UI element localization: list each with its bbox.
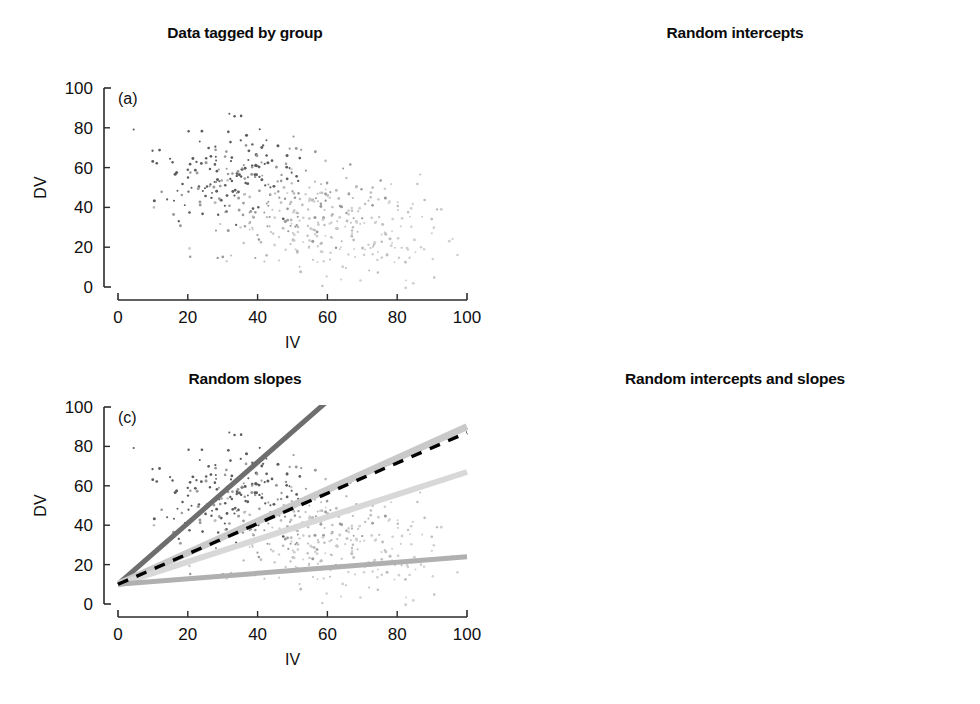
y-tick-label: 100 [65,79,93,98]
panel-tag: (c) [118,409,137,426]
panel-b: Random intercepts 0204060801000204060801… [490,0,980,352]
x-tick-label: 20 [178,308,197,327]
y-axis: 020406080100 [65,79,111,297]
x-axis: 020406080100 [113,610,481,644]
y-tick-label: 80 [74,437,93,456]
panel-c-plot: 020406080100020406080100IVDV(c) [0,352,490,704]
x-tick-label: 100 [453,625,481,644]
x-tick-label: 60 [318,625,337,644]
panel-d: Random intercepts and slopes 02040608010… [490,352,980,704]
y-axis-label: DV [32,494,49,517]
y-tick-label: 100 [65,398,93,417]
y-axis: 020406080100 [65,398,111,614]
panel-c: Random slopes 020406080100020406080100IV… [0,352,490,704]
x-tick-label: 100 [453,308,481,327]
group-regression-line [118,352,467,584]
y-tick-label: 40 [74,198,93,217]
x-tick-label: 80 [388,625,407,644]
scatter-points [133,113,459,290]
x-tick-label: 20 [178,625,197,644]
x-axis: 020406080100 [113,293,481,327]
x-tick-label: 0 [113,625,122,644]
y-tick-label: 40 [74,516,93,535]
y-tick-label: 0 [84,278,93,297]
panel-tag: (a) [118,90,138,107]
panel-a-plot: 020406080100020406080100IVDV(a) [0,0,490,352]
x-tick-label: 60 [318,308,337,327]
y-tick-label: 60 [74,477,93,496]
panel-d-plot: 020406080100020406080100IVDV(d) [490,352,980,704]
x-tick-label: 0 [113,308,122,327]
panel-a: Data tagged by group 0204060801000204060… [0,0,490,352]
panel-b-plot: 020406080100020406080100IVDV(b) [490,0,980,352]
figure-multilevel-models: Data tagged by group 0204060801000204060… [0,0,980,704]
regression-lines [118,352,467,584]
x-axis-label: IV [285,334,300,351]
x-tick-label: 40 [248,308,267,327]
group-regression-line [118,472,467,584]
y-tick-label: 20 [74,556,93,575]
x-tick-label: 80 [388,308,407,327]
y-axis-label: DV [32,176,49,199]
y-tick-label: 60 [74,159,93,178]
y-tick-label: 20 [74,238,93,257]
x-axis-label: IV [285,651,300,668]
y-tick-label: 0 [84,595,93,614]
y-tick-label: 80 [74,119,93,138]
x-tick-label: 40 [248,625,267,644]
